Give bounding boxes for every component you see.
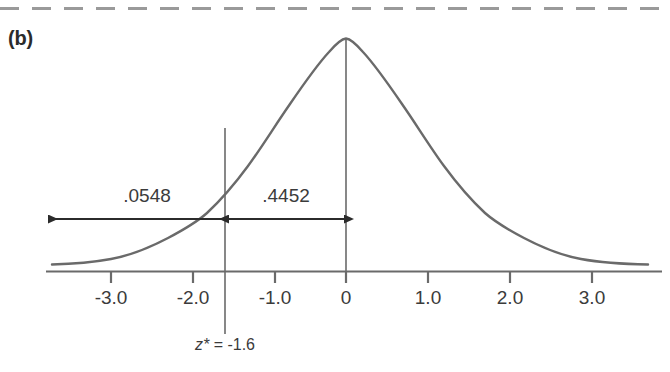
axis-tick-label: -1.0: [259, 287, 292, 309]
left-tail-area-label: .0548: [123, 185, 171, 207]
axis-tick-label: -2.0: [177, 287, 210, 309]
normal-curve-figure: (b) .0548 .4452 -3.0 -2.0 -1.0 0 1.0 2.0…: [0, 0, 670, 372]
normal-curve: [52, 39, 648, 265]
z-star-symbol: z*: [195, 336, 209, 353]
axis-tick-label: 2.0: [497, 287, 523, 309]
panel-label: (b): [8, 27, 33, 50]
figure-canvas: [0, 0, 670, 372]
between-area-label: .4452: [262, 185, 310, 207]
axis-tick-label: 0: [341, 287, 352, 309]
axis-ticks: [111, 272, 592, 284]
z-star-label: z* = -1.6: [195, 336, 255, 354]
z-star-equals: =: [209, 336, 227, 353]
z-star-value: -1.6: [227, 336, 255, 353]
axis-tick-label: 3.0: [579, 287, 605, 309]
axis-tick-label: 1.0: [415, 287, 441, 309]
axis-tick-label: -3.0: [95, 287, 128, 309]
